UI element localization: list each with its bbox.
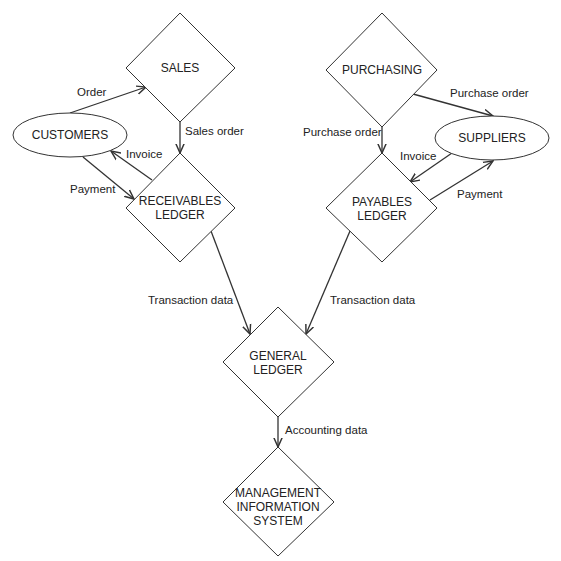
svg-text:INFORMATION: INFORMATION: [236, 500, 319, 514]
svg-text:LEDGER: LEDGER: [253, 363, 303, 377]
edge-purchase-order-suppliers: Purchase order: [413, 87, 529, 116]
node-purchasing: PURCHASING: [326, 13, 437, 127]
svg-text:Accounting data: Accounting data: [285, 424, 368, 436]
svg-text:Payment: Payment: [457, 188, 503, 200]
accounting-flow-diagram: Order Sales order Invoice Payment Purcha…: [0, 0, 561, 561]
svg-text:Invoice: Invoice: [400, 150, 436, 162]
node-general-ledger: GENERAL LEDGER: [223, 307, 334, 417]
svg-text:LEDGER: LEDGER: [155, 208, 205, 222]
svg-text:Transaction data: Transaction data: [148, 294, 234, 306]
edge-sales-order: Sales order: [180, 122, 244, 153]
svg-text:SALES: SALES: [161, 61, 200, 75]
svg-text:Payment: Payment: [70, 183, 116, 195]
edge-transaction-data-payables: Transaction data: [306, 231, 416, 334]
edge-order: Order: [70, 86, 146, 113]
node-payables-ledger: PAYABLES LEDGER: [326, 153, 437, 262]
svg-text:Purchase order: Purchase order: [450, 87, 529, 99]
svg-text:Order: Order: [77, 86, 107, 98]
svg-text:CUSTOMERS: CUSTOMERS: [32, 128, 108, 142]
edge-customer-invoice: Invoice: [111, 148, 162, 180]
node-sales: SALES: [126, 13, 235, 122]
edge-purchase-order-payables: Purchase order: [303, 126, 382, 153]
svg-text:MANAGEMENT: MANAGEMENT: [235, 486, 322, 500]
svg-text:Purchase order: Purchase order: [303, 126, 382, 138]
node-suppliers: SUPPLIERS: [435, 116, 549, 160]
edge-transaction-data-receivables: Transaction data: [148, 231, 250, 334]
edge-supplier-invoice: Invoice: [400, 150, 452, 182]
svg-text:Transaction data: Transaction data: [330, 294, 416, 306]
svg-text:PURCHASING: PURCHASING: [342, 63, 422, 77]
node-customers: CUSTOMERS: [13, 113, 127, 157]
node-management-information-system: MANAGEMENT INFORMATION SYSTEM: [223, 447, 334, 556]
svg-text:PAYABLES: PAYABLES: [352, 195, 412, 209]
svg-text:SYSTEM: SYSTEM: [253, 514, 302, 528]
svg-text:GENERAL: GENERAL: [249, 349, 307, 363]
svg-text:Sales order: Sales order: [185, 125, 244, 137]
svg-text:Invoice: Invoice: [126, 148, 162, 160]
node-receivables-ledger: RECEIVABLES LEDGER: [126, 153, 235, 262]
svg-text:SUPPLIERS: SUPPLIERS: [458, 131, 525, 145]
svg-text:LEDGER: LEDGER: [357, 209, 407, 223]
edge-customer-payment: Payment: [70, 157, 134, 199]
edge-supplier-payment: Payment: [430, 161, 503, 200]
svg-text:RECEIVABLES: RECEIVABLES: [139, 194, 221, 208]
edge-accounting-data: Accounting data: [278, 417, 368, 447]
